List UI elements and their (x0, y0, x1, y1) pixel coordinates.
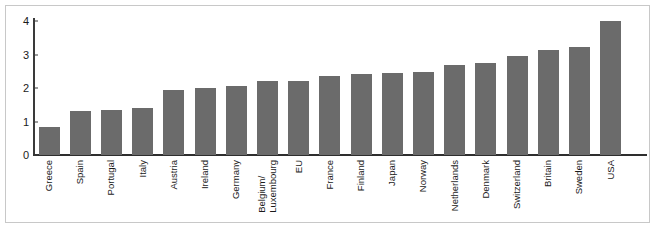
x-tick-label-text: Portugal (106, 160, 117, 195)
x-tick-label: Finland (351, 158, 372, 226)
x-tick-label: Greece (39, 158, 60, 226)
x-tick-label-text: Switzerland (512, 160, 523, 209)
x-tick-label-text: Ireland (200, 160, 211, 189)
bar (319, 76, 340, 155)
bar (163, 90, 184, 155)
x-tick-label-text: Norway (418, 160, 429, 192)
x-tick-label: Britain (538, 158, 559, 226)
bar (132, 108, 153, 155)
bar (101, 110, 122, 155)
x-tick-label: Netherlands (444, 158, 465, 226)
x-tick-label: Ireland (195, 158, 216, 226)
x-tick-label-text: Britain (543, 160, 554, 187)
bar (226, 86, 247, 155)
x-tick-label: Sweden (569, 158, 590, 226)
x-tick-label: Denmark (475, 158, 496, 226)
x-tick-label-text: Germany (231, 160, 242, 199)
bars-container (0, 15, 657, 155)
x-tick-label-text: Netherlands (449, 160, 460, 211)
x-tick-label-text: USA (605, 160, 616, 180)
x-tick-label: Austria (163, 158, 184, 226)
bar (257, 81, 278, 155)
x-tick-label-text: France (325, 160, 336, 190)
x-tick-label-text: Sweden (574, 160, 585, 194)
x-tick-label-text: Finland (356, 160, 367, 191)
bar (413, 72, 434, 155)
x-tick-label: Portugal (101, 158, 122, 226)
x-tick-label: Belgium/ Luxembourg (257, 158, 278, 226)
x-tick-label: Germany (226, 158, 247, 226)
bar (382, 73, 403, 155)
bar (288, 81, 309, 155)
x-tick-label: Switzerland (507, 158, 528, 226)
x-tick-label-text: Greece (44, 160, 55, 191)
x-axis-labels: GreeceSpainPortugalItalyAustriaIrelandGe… (0, 158, 657, 228)
x-tick-label: EU (288, 158, 309, 226)
x-tick-label-text: Denmark (481, 160, 492, 199)
bar (444, 65, 465, 155)
bar (475, 63, 496, 155)
x-tick-label-text: Belgium/ Luxembourg (257, 160, 278, 213)
x-tick-label-text: Spain (75, 160, 86, 184)
x-tick-label-text: EU (293, 160, 304, 173)
x-tick-label: Norway (413, 158, 434, 226)
chart-figure: 01234 GreeceSpainPortugalItalyAustriaIre… (0, 0, 657, 233)
x-tick-label: France (319, 158, 340, 226)
bar (600, 21, 621, 155)
x-tick-label-text: Italy (137, 160, 148, 177)
bar (569, 47, 590, 155)
bar (70, 111, 91, 155)
bar (538, 50, 559, 155)
x-tick-label: Japan (382, 158, 403, 226)
bar (351, 74, 372, 155)
x-tick-label: USA (600, 158, 621, 226)
x-tick-label: Italy (132, 158, 153, 226)
bar (195, 88, 216, 155)
bar (39, 127, 60, 155)
bar (507, 56, 528, 155)
x-tick-label-text: Japan (387, 160, 398, 186)
x-tick-label-text: Austria (169, 160, 180, 190)
x-tick-label: Spain (70, 158, 91, 226)
